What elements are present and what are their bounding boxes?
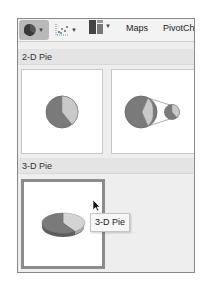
chart-type-dropdown-panel: ▼ ▼ ▼ Maps PivotCh 2-D Pie xyxy=(17,18,195,273)
pie-icon xyxy=(45,95,79,129)
hierarchy-chart-button[interactable]: ▼ xyxy=(88,18,112,36)
tooltip: 3-D Pie xyxy=(90,213,130,232)
pie-chart-button[interactable]: ▼ xyxy=(19,20,49,40)
pivotchart-button[interactable]: PivotCh xyxy=(163,23,195,33)
pie-of-pie-chart-tile[interactable] xyxy=(111,69,195,154)
scatter-chart-icon xyxy=(55,24,69,36)
scatter-chart-button[interactable]: ▼ xyxy=(53,20,79,40)
chevron-down-icon: ▼ xyxy=(38,27,44,33)
chevron-down-icon: ▼ xyxy=(71,27,77,33)
section-header-3d-pie: 3-D Pie xyxy=(18,158,194,174)
section-header-2d-pie: 2-D Pie xyxy=(18,49,194,65)
pie-chart-icon xyxy=(24,23,36,37)
pie-chart-tile[interactable] xyxy=(21,69,103,154)
chart-toolbar: ▼ ▼ ▼ Maps PivotCh xyxy=(18,19,194,42)
hierarchy-chart-icon xyxy=(89,18,103,34)
chevron-down-icon: ▼ xyxy=(105,23,111,29)
pie-of-pie-icon xyxy=(124,95,182,129)
maps-button[interactable]: Maps xyxy=(126,23,148,33)
3d-pie-icon xyxy=(40,210,86,238)
